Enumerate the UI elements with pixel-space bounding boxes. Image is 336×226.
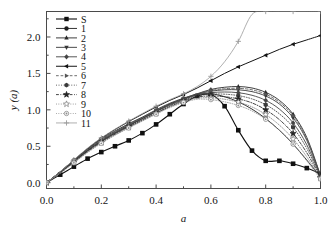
y-tick-label: 1.0 [27, 104, 41, 116]
data-point-marker [263, 53, 267, 57]
svg-text:y (a): y (a) [7, 89, 20, 111]
data-point-marker [85, 156, 90, 161]
data-point-marker [100, 142, 102, 144]
data-point-marker [292, 143, 294, 145]
data-point-marker [277, 159, 282, 164]
data-point-marker [222, 104, 227, 109]
data-point-marker [236, 128, 241, 133]
data-point-marker [263, 98, 268, 103]
y-tick-label: 2.0 [27, 31, 41, 43]
data-point-marker [126, 138, 131, 143]
x-tick-label: 0.8 [259, 194, 273, 206]
data-point-marker [250, 148, 255, 153]
y-tick-label: 0.5 [27, 140, 41, 152]
series-line [47, 94, 321, 183]
data-point-marker [265, 118, 267, 120]
data-point-marker [63, 91, 69, 97]
data-point-marker [113, 144, 118, 149]
x-tick-label: 0.4 [149, 194, 163, 206]
data-point-marker [63, 101, 69, 107]
data-point-marker [305, 166, 310, 171]
data-point-marker [291, 42, 295, 46]
y-tick-label: 1.5 [27, 67, 41, 79]
data-point-marker [64, 17, 68, 21]
y-tick-label: 0.0 [27, 177, 41, 189]
data-point-marker [155, 113, 157, 115]
x-tick-label: 0.0 [40, 194, 54, 206]
x-tick-label: 0.6 [204, 194, 218, 206]
x-tick-label: 1.0 [314, 194, 328, 206]
x-axis-title: a [181, 212, 187, 224]
y-axis-title: y (a) [7, 89, 20, 111]
data-point-marker [99, 150, 104, 155]
data-point-marker [128, 127, 130, 129]
x-tick-label: 0.2 [94, 194, 108, 206]
data-point-marker [66, 113, 68, 115]
data-point-marker [154, 122, 159, 127]
data-point-marker [168, 112, 173, 117]
data-point-marker [237, 105, 239, 107]
legend-entry-11[interactable]: 11 [56, 118, 91, 129]
data-point-marker [183, 102, 185, 104]
data-point-marker [64, 64, 68, 68]
data-point-marker [320, 178, 322, 180]
legend-layer: S1234567891011 [56, 14, 91, 129]
data-point-marker [64, 26, 68, 30]
data-point-marker [140, 131, 145, 136]
data-point-marker [64, 54, 69, 59]
data-point-marker [236, 65, 240, 69]
data-point-marker [263, 159, 268, 164]
data-point-marker [65, 74, 69, 78]
line-chart: 0.00.20.40.60.81.00.00.51.01.52.0 S12345… [0, 0, 336, 226]
chart-figure: 0.00.20.40.60.81.00.00.51.01.52.0 S12345… [0, 0, 336, 226]
data-point-marker [64, 83, 68, 88]
data-point-marker [210, 99, 212, 101]
data-point-marker [291, 161, 296, 166]
legend-label: 11 [81, 118, 91, 129]
